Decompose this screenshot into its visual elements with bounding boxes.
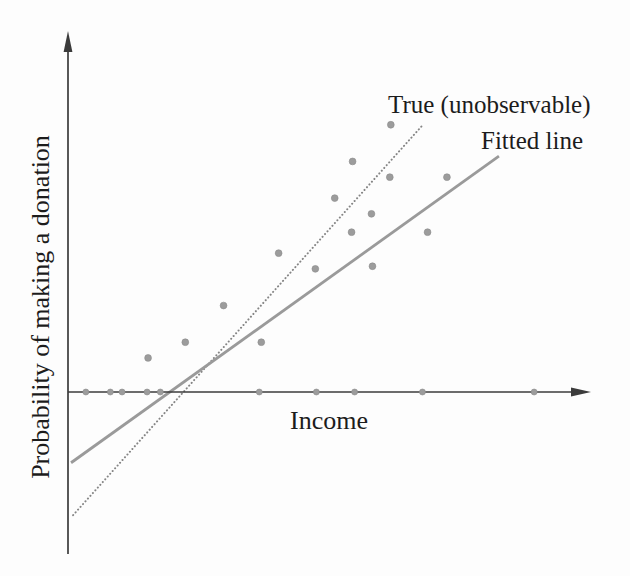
axis-point — [157, 389, 163, 395]
fitted-line — [71, 156, 499, 463]
y-axis-label: Probability of making a donation — [26, 135, 56, 479]
axis-point — [107, 389, 113, 395]
scatter-point — [368, 210, 375, 217]
axis-point — [144, 389, 150, 395]
scatter-point — [258, 339, 265, 346]
scatter-point — [275, 250, 282, 257]
x-axis-arrowhead — [571, 388, 591, 397]
scatter-point — [386, 174, 393, 181]
true-line — [73, 125, 423, 515]
axis-point — [313, 389, 319, 395]
scatter-point — [312, 265, 319, 272]
scatter-point — [145, 355, 152, 362]
axis-point — [83, 389, 89, 395]
scatter-point — [220, 302, 227, 309]
donation-probability-figure: Probability of making a donation Income … — [0, 0, 630, 576]
scatter-point — [444, 174, 451, 181]
chart-canvas — [0, 0, 630, 576]
x-axis-label: Income — [290, 406, 368, 436]
scatter-point — [424, 229, 431, 236]
scatter-point — [348, 229, 355, 236]
scatter-point — [369, 263, 376, 270]
y-axis-arrowhead — [64, 31, 73, 52]
axis-point — [419, 389, 425, 395]
scatter-point — [387, 121, 394, 128]
fitted-line-label: Fitted line — [481, 127, 583, 155]
true-line-label: True (unobservable) — [388, 91, 591, 119]
axis-point — [119, 389, 125, 395]
axis-point — [256, 389, 262, 395]
axis-point — [352, 389, 358, 395]
axis-point — [531, 389, 537, 395]
scatter-point — [349, 158, 356, 165]
scatter-point — [182, 339, 189, 346]
scatter-point — [331, 195, 338, 202]
